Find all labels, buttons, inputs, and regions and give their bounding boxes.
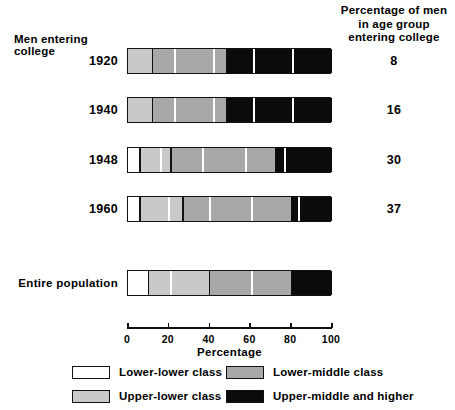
bar-divider [139, 148, 141, 172]
bar-segment [128, 98, 152, 122]
bar-divider [168, 197, 170, 221]
bar-segment [291, 197, 332, 221]
bar-divider [292, 98, 294, 122]
row-label-1940: 1940 [0, 97, 118, 123]
stacked-bar [127, 270, 331, 296]
bar-divider [174, 98, 176, 122]
stacked-bar-chart: Percentage of men in age group entering … [0, 0, 455, 410]
right-column-title-line-3: entering college [333, 31, 455, 45]
bar-divider [160, 148, 162, 172]
legend-swatch-lower-middle-icon [226, 366, 264, 379]
bar-segment [152, 98, 225, 122]
bar-segment [128, 49, 152, 73]
legend-swatch-upper-middle-icon [226, 390, 264, 403]
chart-row: Entire population [0, 270, 455, 296]
bar-segment [152, 49, 225, 73]
bar-divider [152, 98, 154, 122]
axis-tick [249, 323, 251, 328]
legend-item-upper-middle: Upper-middle and higher [226, 388, 414, 404]
row-label-1920: 1920 [0, 48, 118, 74]
bar-divider [174, 49, 176, 73]
stacked-bar [127, 97, 331, 123]
axis-line [127, 327, 332, 329]
bar-divider [284, 148, 286, 172]
axis-tick [331, 323, 333, 328]
bar-divider [170, 148, 172, 172]
axis-tick [209, 323, 211, 328]
row-value: 37 [333, 196, 455, 222]
chart-row: 194016 [0, 97, 455, 123]
axis-tick-label: 60 [243, 333, 255, 345]
bar-segment [128, 197, 140, 221]
right-column-title-line-1: Percentage of men [333, 4, 455, 18]
legend-swatch-lower-lower-icon [72, 366, 110, 379]
legend-item-upper-lower: Upper-lower class [72, 388, 221, 404]
bar-divider [298, 197, 300, 221]
right-column-title: Percentage of men in age group entering … [333, 4, 455, 45]
bar-segment [148, 271, 209, 295]
stacked-bar [127, 48, 331, 74]
legend-swatch-upper-lower-icon [72, 390, 110, 403]
bar-segment [291, 271, 332, 295]
bar-segment [171, 148, 275, 172]
axis-tick [290, 323, 292, 328]
axis-tick-label: 40 [202, 333, 214, 345]
row-value: 16 [333, 97, 455, 123]
stacked-bar [127, 196, 331, 222]
bar-divider [253, 98, 255, 122]
axis-tick [127, 323, 129, 328]
axis-tick-label: 20 [162, 333, 174, 345]
bar-divider [253, 49, 255, 73]
chart-row: 19208 [0, 48, 455, 74]
bar-divider [209, 197, 211, 221]
stacked-bar [127, 147, 331, 173]
axis-tick-label: 80 [284, 333, 296, 345]
bar-divider [148, 271, 150, 295]
bar-segment [128, 148, 140, 172]
bar-segment [128, 271, 148, 295]
chart-row: 194830 [0, 147, 455, 173]
chart-row: 196037 [0, 196, 455, 222]
row-label-1960: 1960 [0, 196, 118, 222]
bar-segment [210, 271, 292, 295]
row-value: 8 [333, 48, 455, 74]
bar-divider [170, 271, 172, 295]
bar-segment [140, 148, 171, 172]
legend: Lower-lower class Lower-middle class Upp… [0, 362, 455, 408]
bar-divider [213, 98, 215, 122]
axis-tick [168, 323, 170, 328]
legend-label-upper-lower: Upper-lower class [119, 390, 221, 402]
x-axis: 020406080100 [127, 327, 332, 328]
axis-title: Percentage [127, 346, 332, 358]
bar-segment [140, 197, 183, 221]
bar-divider [182, 197, 184, 221]
bar-segment [183, 197, 291, 221]
axis-tick-label: 100 [322, 333, 340, 345]
row-label-1948: 1948 [0, 147, 118, 173]
bar-segment [226, 49, 332, 73]
row-value [333, 270, 455, 296]
row-value: 30 [333, 147, 455, 173]
bar-divider [139, 197, 141, 221]
bar-divider [202, 148, 204, 172]
bar-divider [213, 49, 215, 73]
legend-item-lower-middle: Lower-middle class [226, 364, 383, 380]
bar-divider [251, 197, 253, 221]
row-label-entire-population: Entire population [0, 270, 118, 296]
legend-label-upper-middle: Upper-middle and higher [273, 390, 414, 402]
right-column-title-line-2: in age group [333, 18, 455, 32]
axis-tick-label: 0 [124, 333, 130, 345]
legend-label-lower-lower: Lower-lower class [119, 366, 222, 378]
bar-divider [245, 148, 247, 172]
bar-divider [152, 49, 154, 73]
bar-segment [226, 98, 332, 122]
legend-item-lower-lower: Lower-lower class [72, 364, 222, 380]
bar-divider [209, 271, 211, 295]
bar-divider [251, 271, 253, 295]
bar-divider [292, 49, 294, 73]
legend-label-lower-middle: Lower-middle class [273, 366, 383, 378]
